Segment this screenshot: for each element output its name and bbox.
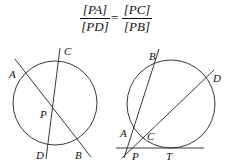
label-d-right: D xyxy=(212,72,221,84)
right-diagram-labels: B D A C P T xyxy=(119,50,221,162)
left-diagram xyxy=(13,48,97,159)
label-b-right: B xyxy=(149,50,156,62)
label-b-left: B xyxy=(75,149,82,161)
label-t-right: T xyxy=(166,150,173,162)
label-p-right: P xyxy=(131,150,139,162)
secant-pd xyxy=(122,70,214,158)
chord-cd xyxy=(46,48,60,159)
label-a-right: A xyxy=(119,127,127,139)
left-circle xyxy=(13,61,97,145)
chord-ab xyxy=(15,59,91,157)
right-circle xyxy=(127,60,215,148)
label-a-left: A xyxy=(8,68,16,80)
label-c-right: C xyxy=(147,130,155,142)
right-diagram xyxy=(116,49,215,158)
label-p-left: P xyxy=(39,108,47,120)
geometry-figures: A C P D B B D A C P T xyxy=(0,0,232,162)
label-c-left: C xyxy=(64,45,72,57)
label-d-left: D xyxy=(35,149,44,161)
